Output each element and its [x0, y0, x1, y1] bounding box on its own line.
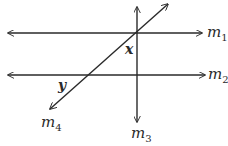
- label-m1: m1: [207, 23, 228, 43]
- label-m4: m4: [41, 113, 62, 133]
- angle-label-x: x: [124, 41, 134, 57]
- line-m4: [50, 4, 168, 109]
- geometry-diagram: m1 m2 m3 m4 x y: [0, 0, 228, 146]
- angle-label-y: y: [57, 77, 67, 93]
- label-m3: m3: [131, 124, 152, 144]
- label-m2: m2: [208, 65, 228, 85]
